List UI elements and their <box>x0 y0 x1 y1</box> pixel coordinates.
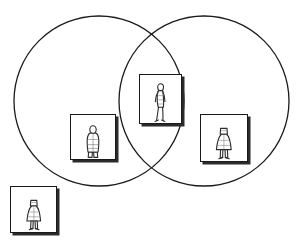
card-intersection[interactable]: Tall slim standing person <box>139 74 182 124</box>
stocky-person-figure <box>83 125 103 159</box>
card-outside[interactable]: Person wearing a wide coat outside the s… <box>10 186 57 233</box>
card-left-only[interactable]: Stocky standing person <box>70 114 116 160</box>
venn-diagram-canvas: Venn diagram of two overlapping sets wit… <box>0 0 303 245</box>
coat-person-figure-right <box>213 127 235 161</box>
coat-person-figure-outside <box>23 199 45 232</box>
card-right-only[interactable]: Person wearing a wide coat <box>200 114 248 162</box>
tall-person-figure <box>152 83 170 123</box>
